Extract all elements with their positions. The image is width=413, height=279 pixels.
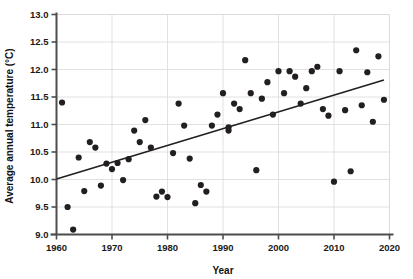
data-point: [237, 106, 243, 112]
y-axis-title: Average annual temperature (°C): [4, 48, 15, 203]
data-point: [348, 168, 354, 174]
data-point: [192, 200, 198, 206]
x-axis-ticks: 1960197019801990200020102020: [46, 235, 400, 253]
y-tick-label: 10.5: [30, 146, 49, 157]
data-point: [59, 99, 65, 105]
data-point: [314, 64, 320, 70]
data-point: [259, 96, 265, 102]
data-point: [70, 226, 76, 232]
data-point: [303, 85, 309, 91]
data-point: [353, 47, 359, 53]
data-point: [137, 139, 143, 145]
data-point: [336, 68, 342, 74]
data-point: [76, 154, 82, 160]
y-tick-label: 13.0: [30, 9, 49, 20]
y-tick-label: 11.0: [31, 119, 49, 130]
y-tick-label: 9.5: [35, 201, 49, 212]
data-point: [231, 101, 237, 107]
data-point: [176, 101, 182, 107]
data-point: [131, 127, 137, 133]
data-point: [253, 167, 259, 173]
data-point: [275, 68, 281, 74]
data-point: [198, 182, 204, 188]
data-point: [209, 123, 215, 129]
data-point: [375, 53, 381, 59]
data-point: [153, 193, 159, 199]
data-point: [331, 179, 337, 185]
x-tick-label: 1980: [157, 242, 178, 253]
data-point: [264, 79, 270, 85]
data-point: [92, 145, 98, 151]
data-point: [370, 119, 376, 125]
data-point: [214, 112, 220, 118]
data-point: [159, 189, 165, 195]
chart-container: 9.09.510.010.511.011.512.012.513.0 19601…: [0, 0, 413, 279]
data-point: [325, 113, 331, 119]
x-tick-label: 2010: [323, 242, 344, 253]
data-point: [98, 182, 104, 188]
data-point: [181, 123, 187, 129]
data-point: [287, 68, 293, 74]
data-point: [109, 166, 115, 172]
data-point: [164, 194, 170, 200]
data-point: [81, 188, 87, 194]
data-point: [65, 204, 71, 210]
x-tick-label: 1990: [212, 242, 233, 253]
y-tick-label: 10.0: [30, 174, 49, 185]
data-point: [248, 90, 254, 96]
x-tick-label: 2000: [268, 242, 289, 253]
data-point: [359, 102, 365, 108]
x-tick-label: 1970: [101, 242, 122, 253]
data-point: [170, 150, 176, 156]
y-tick-label: 12.0: [30, 64, 49, 75]
data-point: [203, 189, 209, 195]
data-point: [364, 69, 370, 75]
data-point: [309, 68, 315, 74]
y-axis-ticks: 9.09.510.010.511.011.512.012.513.0: [30, 9, 57, 240]
data-point: [292, 74, 298, 80]
data-point: [142, 117, 148, 123]
x-tick-label: 1960: [46, 242, 67, 253]
data-point: [242, 57, 248, 63]
data-point: [342, 107, 348, 113]
x-tick-label: 2020: [379, 242, 400, 253]
y-tick-label: 11.5: [31, 91, 50, 102]
data-point: [281, 90, 287, 96]
trend-line: [57, 80, 384, 179]
grid-lines: [57, 15, 390, 235]
y-tick-label: 9.0: [35, 229, 48, 240]
data-point: [87, 139, 93, 145]
scatter-plot: 9.09.510.010.511.011.512.012.513.0 19601…: [0, 0, 413, 279]
data-point: [381, 97, 387, 103]
trend-line-segment: [57, 80, 384, 179]
data-point: [220, 90, 226, 96]
plot-frame: [51, 13, 394, 235]
x-axis-title: Year: [212, 265, 233, 276]
data-point: [120, 177, 126, 183]
y-tick-label: 12.5: [30, 36, 49, 47]
data-point: [187, 156, 193, 162]
data-point: [320, 106, 326, 112]
